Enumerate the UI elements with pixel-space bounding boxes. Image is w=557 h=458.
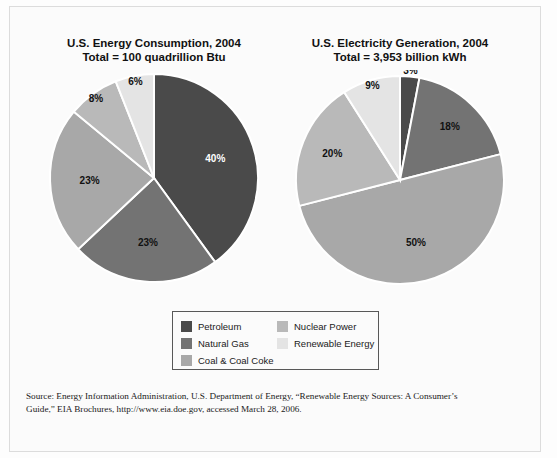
pie-slice-label: 20% — [322, 148, 342, 159]
legend-swatch-icon — [181, 338, 192, 349]
legend-item-petroleum[interactable]: Petroleum — [181, 318, 281, 334]
pie-area-energy-consumption: 40%23%23%8%6% — [30, 70, 278, 300]
pie-slice-label: 23% — [138, 237, 158, 248]
pie-chart-energy-consumption: 40%23%23%8%6% — [30, 70, 278, 300]
figure-root: U.S. Energy Consumption, 2004 Total = 10… — [0, 0, 557, 458]
legend-swatch-icon — [277, 321, 288, 332]
pie-slice-label: 18% — [440, 121, 460, 132]
chart-energy-consumption: U.S. Energy Consumption, 2004 Total = 10… — [30, 36, 278, 304]
legend-item-coal-coal-coke[interactable]: Coal & Coal Coke — [181, 352, 281, 368]
legend-swatch-icon — [181, 355, 192, 366]
legend-item-nuclear-power[interactable]: Nuclear Power — [277, 318, 377, 334]
pie-slice-label: 23% — [80, 175, 100, 186]
source-line-2: Guide,” EIA Brochures, http://www.eia.do… — [26, 403, 496, 416]
legend-item-label: Renewable Energy — [294, 338, 374, 349]
legend-item-natural-gas[interactable]: Natural Gas — [181, 335, 281, 351]
source-line-1: Source: Energy Information Administratio… — [26, 390, 496, 403]
pie-chart-electricity-generation: 3%18%50%20%9% — [276, 70, 524, 300]
legend-item-renewable-energy[interactable]: Renewable Energy — [277, 335, 377, 351]
legend-swatch-icon — [181, 321, 192, 332]
legend-swatch-icon — [277, 338, 288, 349]
chart-subtitle-electricity-generation: Total = 3,953 billion kWh — [276, 50, 524, 64]
legend-item-label: Natural Gas — [198, 338, 249, 349]
pie-slice-label: 6% — [128, 76, 143, 87]
pie-slice-label: 3% — [403, 70, 418, 76]
legend-item-label: Petroleum — [198, 321, 241, 332]
legend-item-label: Nuclear Power — [294, 321, 356, 332]
pie-slice-label: 8% — [89, 93, 104, 104]
chart-subtitle-energy-consumption: Total = 100 quadrillion Btu — [30, 50, 278, 64]
legend-item-label: Coal & Coal Coke — [198, 355, 274, 366]
legend-column-primary: PetroleumNatural GasCoal & Coal Coke — [181, 318, 281, 369]
chart-title-energy-consumption: U.S. Energy Consumption, 2004 — [30, 36, 278, 50]
source-note: Source: Energy Information Administratio… — [26, 390, 496, 415]
chart-legend: PetroleumNatural GasCoal & Coal Coke Nuc… — [172, 311, 379, 370]
pie-slice-label: 9% — [365, 80, 380, 91]
pie-slice-label: 40% — [205, 153, 225, 164]
pie-slice-label: 50% — [406, 237, 426, 248]
legend-column-secondary: Nuclear PowerRenewable Energy — [277, 318, 377, 352]
pie-area-electricity-generation: 3%18%50%20%9% — [276, 70, 524, 300]
chart-electricity-generation: U.S. Electricity Generation, 2004 Total … — [276, 36, 524, 304]
chart-title-electricity-generation: U.S. Electricity Generation, 2004 — [276, 36, 524, 50]
